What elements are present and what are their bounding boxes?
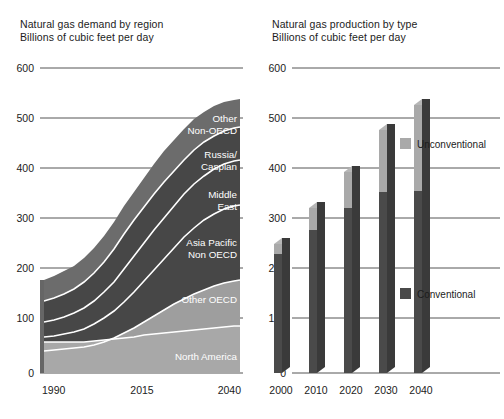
label-north-america: North America	[175, 351, 238, 362]
production-ytick-600: 600	[268, 62, 286, 74]
demand-ytick-300: 300	[16, 212, 34, 224]
demand-xtick-2015: 2015	[130, 384, 154, 396]
bar-2000-unconventional	[274, 244, 282, 254]
demand-ytick-0: 0	[28, 367, 34, 379]
production-xtick-2000: 2000	[269, 384, 293, 396]
demand-ytick-400: 400	[16, 162, 34, 174]
production-xtick-2010: 2010	[304, 384, 328, 396]
label-other-oecd: Other OECD	[181, 294, 237, 305]
bar-2010-side	[317, 202, 325, 373]
bar-2010-conventional	[309, 230, 317, 373]
bar-2040-conventional	[414, 191, 422, 373]
demand-ytick-500: 500	[16, 112, 34, 124]
bar-2030-side	[387, 124, 395, 373]
legend-label-unconventional: Unconventional	[417, 139, 486, 150]
label-russia-caspian-2: Casplan	[201, 161, 237, 172]
production-ytick-400: 400	[268, 162, 286, 174]
label-asia-pacific-1: Asia Pacific	[186, 237, 237, 248]
production-x-axis: 2000 2010 2020 2030 2040	[269, 384, 433, 396]
bar-2020-conventional	[344, 208, 352, 373]
bar-2000-side	[282, 238, 290, 373]
demand-ytick-200: 200	[16, 262, 34, 274]
legend-label-conventional: Conventional	[417, 289, 475, 300]
bar-group-2030[interactable]	[379, 124, 395, 373]
label-asia-pacific-2: Non OECD	[188, 249, 237, 260]
production-bar-chart: 600 500 400 300 200 100 0	[252, 0, 504, 419]
bar-2000-conventional	[274, 254, 282, 373]
bar-2030-unconventional	[379, 130, 387, 192]
production-xtick-2030: 2030	[374, 384, 398, 396]
demand-area-chart: 600 500 400 300 200 100 0	[0, 0, 252, 419]
production-xtick-2040: 2040	[409, 384, 433, 396]
legend-swatch-conventional	[400, 288, 411, 299]
production-legend: Unconventional Conventional	[400, 138, 486, 300]
demand-x-axis: 1990 2015 2040	[42, 384, 241, 396]
bar-2010-unconventional	[309, 208, 317, 230]
bar-group-2020[interactable]	[344, 166, 360, 373]
panel-natural-gas-demand: Natural gas demand by region Billions of…	[0, 0, 252, 419]
production-xtick-2020: 2020	[339, 384, 363, 396]
label-other-non-oecd-2: Non-OECD	[187, 125, 237, 136]
panel-natural-gas-production: Natural gas production by type Billions …	[252, 0, 504, 419]
label-middle-east-2: East	[217, 201, 237, 212]
bar-2020-unconventional	[344, 172, 352, 208]
bar-group-2000[interactable]	[274, 238, 290, 373]
demand-xtick-2040: 2040	[218, 384, 242, 396]
legend-swatch-unconventional	[400, 138, 411, 149]
demand-ytick-100: 100	[16, 312, 34, 324]
bar-group-2010[interactable]	[309, 202, 325, 373]
demand-left-spine	[40, 280, 44, 373]
bar-2020-side	[352, 166, 360, 373]
bar-2030-conventional	[379, 192, 387, 373]
production-ytick-300: 300	[268, 212, 286, 224]
label-middle-east-1: Middle	[208, 189, 237, 200]
demand-xtick-1990: 1990	[42, 384, 66, 396]
demand-ytick-600: 600	[16, 62, 34, 74]
figure-canvas: Natural gas demand by region Billions of…	[0, 0, 504, 419]
demand-y-axis: 600 500 400 300 200 100 0	[16, 62, 34, 379]
production-ytick-500: 500	[268, 112, 286, 124]
label-other-non-oecd-1: Other	[212, 113, 237, 124]
label-russia-caspian-1: Russia/	[204, 149, 237, 160]
